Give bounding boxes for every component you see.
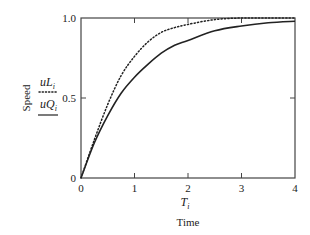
x-tick-label: 3 (239, 182, 245, 194)
speed-vs-time-chart: 0123400.51.0 Speed uLi uQi Ti Time (0, 0, 310, 235)
y-tick-label: 0.5 (62, 92, 76, 104)
x-axis-symbol: Ti (181, 195, 190, 211)
svg-text:uQi: uQi (40, 97, 57, 113)
plot-frame (81, 18, 295, 178)
legend-label-uL: uL (40, 75, 53, 89)
legend-label-uQ: uQ (40, 97, 55, 111)
series-lines (81, 18, 295, 178)
x-tick-label: 4 (292, 182, 298, 194)
legend-item-uQ: uQi (38, 97, 58, 115)
y-axis-label: Speed (20, 84, 32, 111)
legend-sub-uQ: i (55, 104, 57, 113)
legend-sub-uL: i (53, 82, 55, 91)
series-uL-dotted-line (81, 18, 295, 178)
tick-labels: 0123400.51.0 (62, 12, 298, 194)
x-tick-label: 0 (78, 182, 84, 194)
legend: uLi uQi (38, 75, 58, 115)
svg-text:uLi: uLi (40, 75, 55, 91)
axis-ticks (81, 18, 295, 178)
x-tick-label: 1 (132, 182, 138, 194)
series-uQ-solid-line (81, 21, 295, 178)
x-axis-label: Time (177, 216, 200, 228)
x-tick-label: 2 (185, 182, 191, 194)
y-tick-label: 1.0 (62, 12, 76, 24)
legend-item-uL: uLi (39, 75, 57, 92)
y-tick-label: 0 (71, 172, 77, 184)
